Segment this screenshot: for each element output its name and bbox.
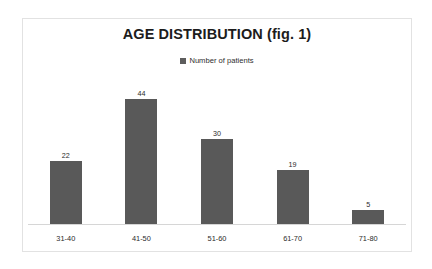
bar-rect — [352, 210, 384, 224]
x-tick-label-group: 41-50 — [104, 225, 180, 252]
bar-value-label: 30 — [213, 130, 221, 137]
x-tick-label: 41-50 — [132, 234, 151, 243]
bar-rect — [277, 170, 309, 224]
bar-group: 5 — [330, 19, 406, 224]
x-tick-label-group: 31-40 — [28, 225, 104, 252]
bar-group: 44 — [104, 19, 180, 224]
bar-value-label: 44 — [137, 90, 145, 97]
bar-rect — [201, 139, 233, 224]
x-axis-labels: 31-40 41-50 51-60 61-70 71-80 — [28, 225, 406, 252]
x-tick-label-group: 51-60 — [179, 225, 255, 252]
x-tick-label-group: 71-80 — [330, 225, 406, 252]
bar-value-label: 22 — [62, 152, 70, 159]
x-tick-label: 71-80 — [359, 234, 378, 243]
bar-group: 22 — [28, 19, 104, 224]
x-tick-label: 31-40 — [56, 234, 75, 243]
x-tick-label: 61-70 — [283, 234, 302, 243]
chart-frame: AGE DISTRIBUTION (fig. 1) Number of pati… — [22, 18, 412, 252]
bar-rect — [125, 99, 157, 224]
bar-value-label: 5 — [366, 201, 370, 208]
bar-group: 19 — [255, 19, 331, 224]
bar-value-label: 19 — [289, 161, 297, 168]
plot-area: 22 44 30 19 5 31-40 — [23, 19, 411, 251]
x-tick-label-group: 61-70 — [255, 225, 331, 252]
bar-group: 30 — [179, 19, 255, 224]
x-tick-label: 51-60 — [208, 234, 227, 243]
bar-rect — [50, 161, 82, 224]
bars-layer: 22 44 30 19 5 — [28, 19, 406, 224]
